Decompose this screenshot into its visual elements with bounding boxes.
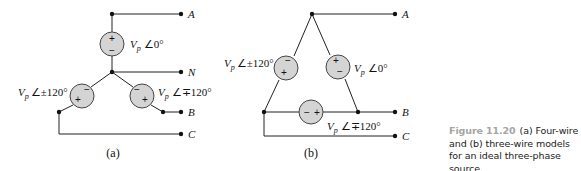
svg-text:−: − (337, 66, 343, 77)
svg-text:Vp∠±120°: Vp∠±120° (18, 86, 68, 101)
svg-text:Vp∠0°: Vp∠0° (354, 62, 388, 77)
svg-text:+: + (75, 94, 81, 105)
svg-text:+: + (281, 67, 287, 78)
svg-text:−: − (134, 84, 140, 95)
svg-text:+: + (314, 107, 320, 118)
svg-text:−: − (304, 107, 310, 118)
svg-text:Vp∠0°: Vp∠0° (130, 38, 164, 53)
svg-text:−: − (285, 55, 291, 66)
svg-text:+: + (333, 55, 339, 66)
svg-text:B: B (188, 106, 195, 118)
figure-caption: Figure 11.20(a) Four-wire and (b) three-… (449, 125, 581, 171)
sublabel-b: (b) (304, 146, 318, 160)
svg-text:+: + (142, 94, 148, 105)
svg-text:Vp∠∓120°: Vp∠∓120° (327, 120, 381, 135)
svg-text:A: A (401, 8, 409, 20)
svg-text:−: − (84, 84, 90, 95)
svg-text:N: N (187, 66, 196, 78)
svg-text:B: B (402, 106, 409, 118)
figure-number: Figure 11.20 (449, 125, 516, 136)
svg-text:C: C (188, 128, 196, 140)
svg-text:Vp∠±120°: Vp∠±120° (224, 57, 274, 72)
svg-text:+: + (109, 33, 115, 44)
svg-text:A: A (187, 8, 195, 20)
sublabel-a: (a) (106, 146, 119, 160)
svg-text:Vp∠∓120°: Vp∠∓120° (158, 86, 212, 101)
source-a-left (70, 84, 94, 108)
svg-text:C: C (402, 130, 410, 142)
svg-text:−: − (109, 45, 115, 56)
